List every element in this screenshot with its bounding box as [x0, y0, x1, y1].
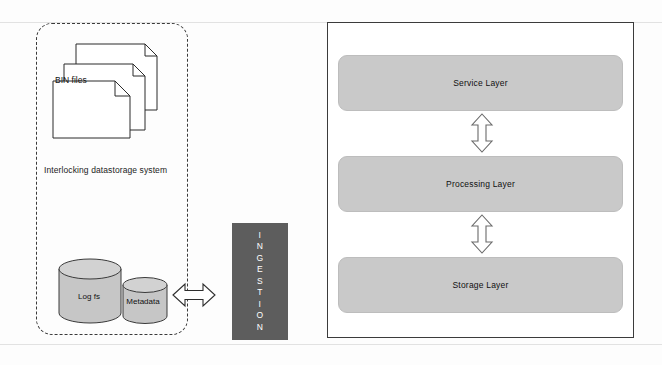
document-stack-icon	[52, 42, 164, 140]
diagram-canvas: BIN files Log fs Metadata I N G E S T I …	[0, 0, 662, 365]
ingestion-letter: T	[256, 287, 263, 299]
ingestion-label: I N G E S T I O N	[256, 230, 263, 334]
ingestion-letter: I	[256, 230, 263, 242]
layer-label: Storage Layer	[453, 280, 509, 290]
layer-service: Service Layer	[338, 55, 623, 111]
ingestion-letter: G	[256, 253, 263, 265]
metadata-label: Metadata	[120, 297, 166, 306]
ingestion-letter: N	[256, 322, 263, 334]
double-headed-vertical-arrow-icon	[468, 113, 496, 153]
platform-panel: Service Layer Processing Layer Storage L…	[327, 22, 634, 338]
ingestion-letter: O	[256, 310, 263, 322]
layer-label: Service Layer	[453, 78, 508, 88]
page-rule-bottom	[0, 344, 662, 345]
ingestion-letter: I	[256, 299, 263, 311]
layer-storage: Storage Layer	[338, 257, 623, 313]
ingestion-letter: N	[256, 241, 263, 253]
interlocking-datastorage-label: Interlocking datastorage system	[44, 165, 167, 175]
double-headed-horizontal-arrow-icon	[172, 280, 216, 310]
layer-label: Processing Layer	[446, 179, 515, 189]
layer-processing: Processing Layer	[338, 156, 623, 212]
ingestion-block: I N G E S T I O N	[232, 223, 288, 340]
ingestion-letter: S	[256, 276, 263, 288]
ingestion-letter: E	[256, 264, 263, 276]
bin-files-label: BIN files	[55, 75, 87, 85]
double-headed-vertical-arrow-icon	[468, 214, 496, 254]
log-fs-label: Log fs	[58, 292, 120, 301]
log-fs-cylinder-icon	[58, 258, 122, 324]
